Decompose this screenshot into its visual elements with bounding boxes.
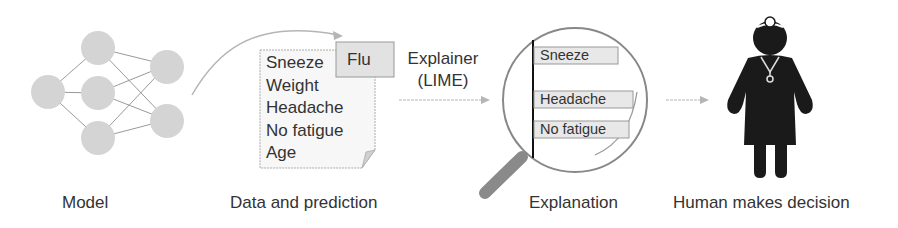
bar-label-sneeze: Sneeze — [540, 47, 589, 63]
caption-data: Data and prediction — [230, 193, 377, 213]
feature-item: Sneeze — [266, 52, 344, 75]
output-node — [150, 50, 184, 84]
output-node — [150, 104, 184, 138]
feature-list: Sneeze Weight Headache No fatigue Age — [266, 52, 344, 165]
prediction-label: Flu — [347, 50, 371, 70]
arrow-head-icon — [700, 96, 709, 104]
arrow-head-icon — [333, 31, 343, 40]
hidden-node — [81, 31, 115, 65]
hidden-node — [81, 76, 115, 110]
explainer-label: Explainer (LIME) — [398, 48, 488, 92]
network-nodes — [31, 31, 184, 155]
feature-item: Weight — [266, 75, 344, 98]
bar-label-headache: Headache — [540, 91, 606, 107]
bar-label-no-fatigue: No fatigue — [540, 121, 606, 137]
arrow-head-icon — [481, 96, 490, 104]
magnifier-handle — [485, 157, 522, 193]
hidden-node — [81, 121, 115, 155]
caption-explanation: Explanation — [529, 193, 618, 213]
explainer-method: (LIME) — [398, 70, 488, 92]
caption-model: Model — [62, 193, 108, 213]
doctor-icon — [727, 21, 813, 178]
feature-item: No fatigue — [266, 120, 344, 143]
feature-item: Headache — [266, 97, 344, 120]
input-node — [31, 75, 65, 109]
head-mirror-icon — [757, 17, 783, 27]
caption-human: Human makes decision — [673, 193, 850, 213]
feature-item: Age — [266, 142, 344, 165]
explainer-name: Explainer — [398, 48, 488, 70]
